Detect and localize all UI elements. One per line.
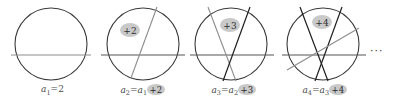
panel-4-diagram: +4 — [277, 0, 372, 84]
caption-equals: = — [312, 85, 320, 95]
caption-rhs: 2 — [58, 84, 64, 94]
ellipsis-continuation: ··· — [370, 44, 384, 57]
caption-badge: +2 — [147, 84, 165, 95]
panel-2-diagram: +2 — [95, 0, 190, 84]
caption-badge: +4 — [329, 84, 347, 95]
circle-chord-sequence-figure: a1=2 +2 a2=a1+2 +3 a3=a2+3 — [0, 0, 393, 112]
caption-equals: = — [221, 85, 229, 95]
chord-diagonal-2 — [223, 7, 250, 81]
badge-label: +4 — [315, 18, 329, 28]
panel-3: +3 a3=a2+3 — [186, 0, 281, 112]
caption-badge: +3 — [238, 84, 256, 95]
panel-2-caption: a2=a1+2 — [95, 84, 190, 97]
chord-diagonal-3 — [287, 28, 359, 70]
panel-2: +2 a2=a1+2 — [95, 0, 190, 112]
badge-label: +2 — [123, 26, 136, 36]
panel-1-diagram — [5, 0, 100, 84]
panel-1-caption: a1=2 — [5, 84, 100, 97]
caption-equals: = — [130, 85, 138, 95]
chord-diagonal-1 — [131, 7, 157, 78]
chord-diagonal-1 — [208, 7, 236, 81]
panel-4-caption: a4=a3+4 — [277, 84, 372, 97]
panel-4: +4 a4=a3+4 — [277, 0, 372, 112]
badge-label: +3 — [223, 21, 237, 31]
panel-3-caption: a3=a2+3 — [186, 84, 281, 97]
panel-1: a1=2 — [5, 0, 100, 112]
circle-outline — [15, 8, 87, 80]
panel-3-diagram: +3 — [186, 0, 281, 84]
